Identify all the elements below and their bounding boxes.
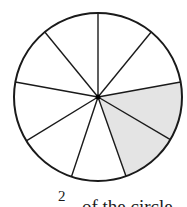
spoke-line [71,97,98,177]
spoke-line [26,97,98,141]
fraction-circle-diagram [0,0,187,207]
fraction-numerator: 2 [58,188,66,205]
spoke-line [45,32,98,97]
center-dot [96,95,101,100]
spoke-line [15,82,98,97]
spoke-line [98,32,151,97]
caption-text: of the circle [82,196,173,207]
